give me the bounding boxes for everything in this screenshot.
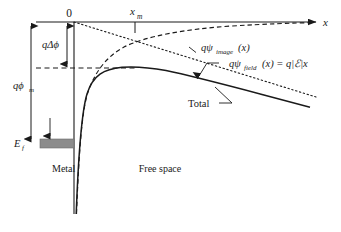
image-potential-label-prefix: qψ [201, 42, 213, 53]
xm-label-subscript: m [137, 12, 143, 21]
x-axis-label: x [322, 16, 328, 28]
total-curve-label: Total [188, 98, 210, 109]
origin-label: 0 [66, 7, 72, 19]
barrier-lowering-label: qΔϕ [42, 39, 59, 50]
metal-region-label: Metal [52, 163, 76, 174]
work-function-label-subscript: m [29, 86, 34, 94]
image-potential-label-suffix: (x) [238, 42, 250, 54]
xm-label: x [129, 5, 135, 17]
field-potential-label-suffix: (x) = q|ℰ|x [262, 58, 308, 70]
fermi-level-bar [40, 139, 74, 148]
field-potential-label-subscript: field [244, 64, 257, 72]
image-potential-label-subscript: image [216, 48, 233, 56]
field-potential-label-prefix: qψ [229, 58, 241, 69]
work-function-label: qϕ [13, 80, 24, 91]
diagram-background [0, 0, 341, 232]
fermi-level-label: E [13, 138, 21, 149]
free-space-region-label: Free space [139, 163, 182, 174]
schottky-barrier-diagram: 0 x m x qΔϕ qϕ m E f Metal Free space qψ… [0, 0, 341, 232]
diagram-canvas: 0 x m x qΔϕ qϕ m E f Metal Free space qψ… [0, 0, 341, 232]
